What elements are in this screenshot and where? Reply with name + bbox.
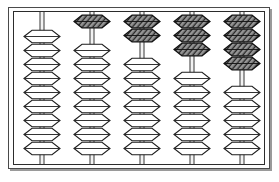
abacus-figure — [0, 0, 279, 182]
bead-raised-4-2[interactable] — [172, 28, 212, 43]
bead-lowered-1-8[interactable] — [22, 43, 62, 58]
bead-lowered-1-6[interactable] — [22, 71, 62, 86]
bead-lowered-4-2[interactable] — [172, 127, 212, 142]
bead-raised-5-2[interactable] — [222, 28, 262, 43]
bead-lowered-4-6[interactable] — [172, 71, 212, 86]
bead-lowered-2-4[interactable] — [72, 99, 112, 114]
bead-lowered-3-1[interactable] — [122, 141, 162, 156]
bead-lowered-2-3[interactable] — [72, 113, 112, 128]
abacus-rods-area — [14, 12, 264, 164]
bead-lowered-5-1[interactable] — [222, 141, 262, 156]
bead-lowered-5-4[interactable] — [222, 99, 262, 114]
bead-lowered-1-1[interactable] — [22, 141, 62, 156]
bead-lowered-2-6[interactable] — [72, 71, 112, 86]
bead-lowered-4-5[interactable] — [172, 85, 212, 100]
bead-lowered-2-5[interactable] — [72, 85, 112, 100]
bead-lowered-1-3[interactable] — [22, 113, 62, 128]
bead-raised-4-3[interactable] — [172, 42, 212, 57]
bead-lowered-1-9[interactable] — [22, 29, 62, 44]
bead-lowered-4-1[interactable] — [172, 141, 212, 156]
bead-lowered-1-4[interactable] — [22, 99, 62, 114]
bead-lowered-5-3[interactable] — [222, 113, 262, 128]
bead-lowered-4-3[interactable] — [172, 113, 212, 128]
abacus-rod-4[interactable] — [170, 12, 214, 164]
bead-lowered-1-5[interactable] — [22, 85, 62, 100]
bead-raised-5-4[interactable] — [222, 56, 262, 71]
abacus-rod-3[interactable] — [120, 12, 164, 164]
bead-lowered-4-4[interactable] — [172, 99, 212, 114]
bead-lowered-3-6[interactable] — [122, 71, 162, 86]
bead-lowered-1-2[interactable] — [22, 127, 62, 142]
bead-lowered-1-7[interactable] — [22, 57, 62, 72]
bead-raised-3-1[interactable] — [122, 14, 162, 29]
bead-lowered-5-5[interactable] — [222, 85, 262, 100]
abacus-rod-2[interactable] — [70, 12, 114, 164]
bead-lowered-5-2[interactable] — [222, 127, 262, 142]
bead-lowered-3-3[interactable] — [122, 113, 162, 128]
bead-raised-4-1[interactable] — [172, 14, 212, 29]
bead-lowered-2-7[interactable] — [72, 57, 112, 72]
bead-lowered-3-2[interactable] — [122, 127, 162, 142]
bead-raised-3-2[interactable] — [122, 28, 162, 43]
bead-lowered-2-1[interactable] — [72, 141, 112, 156]
bead-raised-5-1[interactable] — [222, 14, 262, 29]
bead-raised-2-1[interactable] — [72, 14, 112, 29]
bead-lowered-3-4[interactable] — [122, 99, 162, 114]
bead-raised-5-3[interactable] — [222, 42, 262, 57]
abacus-rod-1[interactable] — [20, 12, 64, 164]
bead-lowered-2-8[interactable] — [72, 43, 112, 58]
abacus-rod-5[interactable] — [220, 12, 264, 164]
bead-lowered-3-7[interactable] — [122, 57, 162, 72]
bead-lowered-3-5[interactable] — [122, 85, 162, 100]
bead-lowered-2-2[interactable] — [72, 127, 112, 142]
